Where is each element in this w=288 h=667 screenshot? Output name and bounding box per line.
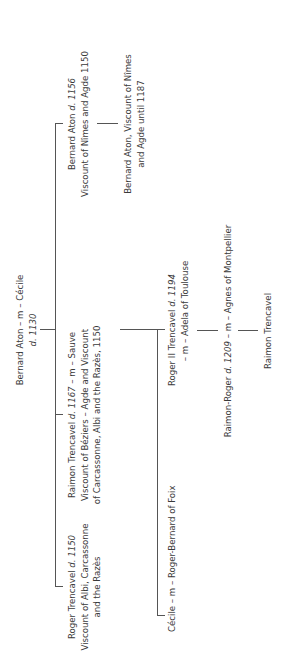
node-bernard-aton-1156: Bernard Aton d. 1156 Viscount of Nîmes a… xyxy=(66,51,91,197)
raimon-trencavel-died: d. 1167 xyxy=(67,386,77,419)
node-roger-trencavel: Roger Trencavel d. 1150 Viscount of Albi… xyxy=(66,523,104,650)
tick-roger-ii xyxy=(157,329,165,330)
bernard-aton-son-title: Bernard Aton, Viscount of Nîmes xyxy=(122,54,135,194)
raimon-roger-name: Raimon-Roger xyxy=(223,377,233,438)
bernard-aton-descent-line xyxy=(97,123,118,124)
bernard-aton-son-title-2: and Agde until 1187 xyxy=(135,54,148,194)
roger-ii-spouse: – m – Adela of Toulouse xyxy=(179,261,192,399)
raimon-roger-died: d. 1209 xyxy=(223,341,233,374)
roger-ii-name: Roger II Trencavel xyxy=(167,310,177,386)
tick-raimon-trencavel xyxy=(55,414,63,415)
family-tree-diagram: Bernard Aton – m – Cécile d. 1130 Roger … xyxy=(0,0,288,667)
roger-trencavel-title-2: and the Razès xyxy=(91,523,104,650)
node-cecile: Cécile – m – Roger-Bernard of Foix xyxy=(166,485,179,667)
roger-trencavel-died: d. 1150 xyxy=(67,535,77,568)
roger-trencavel-title: Viscount of Albi, Carcassonne xyxy=(79,523,92,650)
raimon-trencavel-title-2: of Carcassonne, Albi and the Razès, 1150 xyxy=(91,326,104,505)
roger-ii-died: d. 1194 xyxy=(167,274,177,307)
raimon-trencavel-title: Viscount of Béziers – Agde and Viscount xyxy=(79,326,92,505)
node-raimon-roger: Raimon-Roger d. 1209 – m – Agnes of Mont… xyxy=(222,225,235,438)
second-bracket-line xyxy=(157,329,158,616)
root-names: Bernard Aton – m – Cécile xyxy=(14,275,27,386)
node-raimon-trencavel-jr: Raimon Trencavel xyxy=(262,293,275,369)
bernard-aton-1156-died: d. 1156 xyxy=(67,78,77,111)
raimon-roger-descent-line xyxy=(238,330,258,331)
roger-trencavel-name: Roger Trencavel xyxy=(67,570,77,639)
roger-ii-descent-line xyxy=(197,330,218,331)
tick-bernard-aton-1156 xyxy=(55,123,63,124)
raimon-roger-spouse: – m – Agnes of Montpellier xyxy=(223,225,233,339)
bernard-aton-1156-title: Viscount of Nîmes and Agde 1150 xyxy=(79,51,92,197)
raimon-trencavel-name: Raimon Trencavel xyxy=(67,422,77,498)
node-bernard-aton-son: Bernard Aton, Viscount of Nîmes and Agde… xyxy=(122,54,147,194)
main-bracket-line xyxy=(55,123,56,587)
raimon-trencavel-spouse: – m – Sauve xyxy=(67,332,77,384)
node-raimon-trencavel: Raimon Trencavel d. 1167 – m – Sauve Vis… xyxy=(66,326,104,505)
tick-cecile xyxy=(157,615,165,616)
root-couple: Bernard Aton – m – Cécile d. 1130 xyxy=(14,275,39,386)
root-death-date: d. 1130 xyxy=(28,314,38,347)
raimon-stub-line xyxy=(120,329,157,330)
node-roger-ii: Roger II Trencavel d. 1194 – m – Adela o… xyxy=(166,261,191,399)
root-stub-line xyxy=(40,329,55,330)
raimon-trencavel-jr-name: Raimon Trencavel xyxy=(262,293,275,369)
cecile-marriage: Cécile – m – Roger-Bernard of Foix xyxy=(166,485,179,667)
tick-roger-trencavel xyxy=(55,586,63,587)
bernard-aton-1156-name: Bernard Aton xyxy=(67,113,77,170)
